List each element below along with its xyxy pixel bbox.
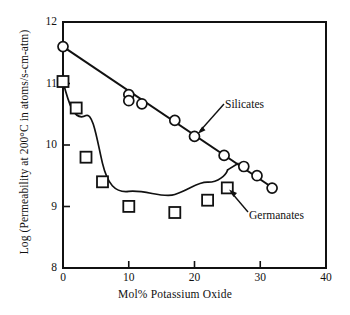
data-point-germanate bbox=[123, 201, 134, 212]
data-point-germanate bbox=[169, 207, 180, 218]
data-point-silicate bbox=[219, 150, 229, 160]
x-tick-label-40: 40 bbox=[311, 271, 341, 283]
y-axis-ticks bbox=[63, 22, 70, 268]
germanates-annotation-arrow bbox=[229, 190, 248, 213]
data-point-germanate bbox=[58, 76, 69, 87]
germanates-fit-curve bbox=[63, 82, 238, 196]
data-point-germanate bbox=[202, 195, 213, 206]
data-point-silicate bbox=[58, 42, 68, 52]
silicates-label: Silicates bbox=[225, 98, 264, 110]
y-axis-title-wrapper: Log (Permeability at 200°C in atoms/s-cm… bbox=[14, 7, 32, 277]
x-axis-title: Mol% Potassium Oxide bbox=[0, 288, 350, 300]
silicates-annotation-arrow bbox=[198, 104, 225, 134]
y-tick-label-12: 12 bbox=[35, 15, 57, 27]
data-point-silicate bbox=[252, 171, 262, 181]
germanates-data-points bbox=[58, 76, 233, 218]
y-axis-title: Log (Permeability at 200°C in atoms/s-cm… bbox=[18, 30, 30, 255]
y-tick-label-9: 9 bbox=[35, 200, 57, 212]
data-point-silicate bbox=[267, 183, 277, 193]
y-tick-label-10: 10 bbox=[35, 138, 57, 150]
data-point-silicate bbox=[124, 96, 134, 106]
data-point-silicate bbox=[170, 115, 180, 125]
data-point-germanate bbox=[71, 103, 82, 114]
germanates-label: Germanates bbox=[249, 209, 304, 221]
plot-frame bbox=[63, 22, 326, 268]
x-tick-label-30: 30 bbox=[245, 271, 275, 283]
x-tick-label-0: 0 bbox=[48, 271, 78, 283]
x-tick-label-10: 10 bbox=[114, 271, 144, 283]
x-axis-ticks bbox=[63, 261, 326, 268]
data-point-germanate bbox=[97, 176, 108, 187]
data-point-silicate bbox=[190, 131, 200, 141]
data-point-silicate bbox=[239, 162, 249, 172]
permeability-chart-figure: 12 11 10 9 8 0 10 20 30 40 Mol% Potassiu… bbox=[0, 0, 350, 315]
data-point-germanate bbox=[81, 152, 92, 163]
data-point-silicate bbox=[137, 99, 147, 109]
x-tick-label-20: 20 bbox=[180, 271, 210, 283]
y-tick-label-11: 11 bbox=[35, 77, 57, 89]
